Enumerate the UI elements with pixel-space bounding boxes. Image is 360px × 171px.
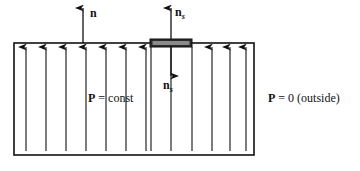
- symbol-ns-up: n: [175, 5, 182, 19]
- slab-rect: [14, 43, 254, 155]
- text-p-outside-rest: = 0 (outside): [275, 91, 339, 105]
- subscript-ns-down: s: [170, 85, 173, 94]
- label-polarization-inside: P = const: [88, 92, 133, 104]
- label-polarization-outside: P = 0 (outside): [268, 92, 340, 104]
- symbol-n: n: [90, 6, 97, 20]
- polarization-field-lines: [26, 47, 246, 151]
- symbol-ns-down: n: [163, 78, 170, 92]
- text-p-inside-rest: = const: [95, 91, 133, 105]
- label-surface-normal-down: ns: [163, 79, 173, 94]
- label-surface-normal-up: ns: [175, 6, 185, 21]
- subscript-ns-up: s: [182, 12, 185, 21]
- dielectric-slab-outline: [14, 43, 254, 155]
- diagram-canvas: [0, 0, 360, 171]
- plate-highlight: [153, 41, 190, 45]
- label-normal-vector-n: n: [90, 7, 97, 22]
- physics-diagram: n ns ns P = const P = 0 (outside): [0, 0, 360, 171]
- surface-element-plate: [150, 39, 192, 47]
